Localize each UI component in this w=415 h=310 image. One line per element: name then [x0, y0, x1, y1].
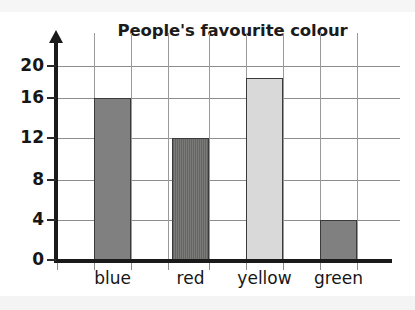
ytick-mark-8: [47, 179, 56, 181]
xtick-label-green: green: [301, 270, 376, 287]
gridline-x-3: [168, 33, 169, 261]
plot-area: [57, 33, 400, 265]
ytick-label-0: 0: [4, 251, 44, 268]
xtick-label-blue: blue: [75, 270, 150, 287]
xtick-mark-2: [131, 263, 132, 270]
gridline-x-8: [357, 33, 358, 261]
x-axis-line: [54, 259, 392, 263]
scan-band-bottom: [0, 296, 415, 310]
ytick-mark-20: [47, 65, 56, 67]
ytick-label-4: 4: [4, 211, 44, 228]
scan-band-top: [0, 0, 415, 12]
ytick-mark-0: [47, 259, 56, 261]
ytick-label-16: 16: [4, 89, 44, 106]
ytick-label-20: 20: [4, 57, 44, 74]
xtick-label-yellow: yellow: [227, 270, 302, 287]
xtick-mark-4: [209, 263, 210, 270]
gridline-x-4: [209, 33, 210, 261]
ytick-mark-4: [47, 219, 56, 221]
ytick-label-12: 12: [4, 129, 44, 146]
y-axis-line: [54, 40, 58, 262]
ytick-label-8: 8: [4, 171, 44, 188]
gridline-y-20: [57, 66, 400, 67]
bar-green[interactable]: [320, 220, 357, 261]
gridline-x-2: [131, 33, 132, 261]
bar-blue[interactable]: [94, 98, 131, 261]
ytick-mark-16: [47, 97, 56, 99]
bar-chart-figure: People's favourite colour: [0, 0, 415, 310]
ytick-mark-12: [47, 137, 56, 139]
gridline-x-6: [283, 33, 284, 261]
xtick-mark-0: [57, 263, 58, 270]
y-axis-arrow-icon: [49, 30, 63, 43]
bar-yellow[interactable]: [246, 78, 283, 261]
bar-red[interactable]: [172, 138, 209, 261]
xtick-mark-3: [168, 263, 169, 270]
xtick-label-red: red: [153, 270, 228, 287]
